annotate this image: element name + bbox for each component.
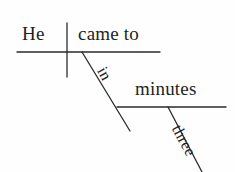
word-verb: came to xyxy=(78,24,139,43)
word-object-of-preposition: minutes xyxy=(135,79,197,98)
sentence-diagram: He came to in minutes three xyxy=(0,0,235,172)
word-subject: He xyxy=(22,24,45,43)
